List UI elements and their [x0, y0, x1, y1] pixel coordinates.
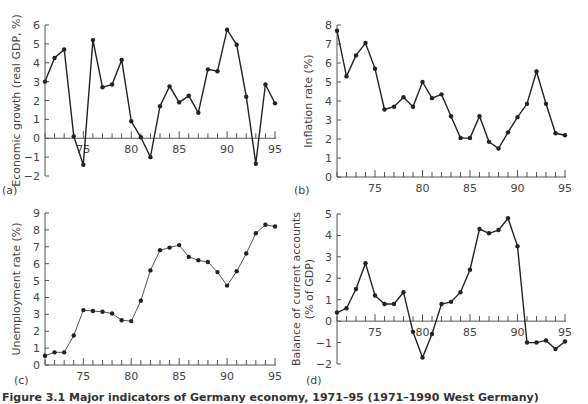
y-tick-label: −1: [24, 151, 40, 164]
data-point: [43, 354, 47, 358]
y-tick-label: 1: [325, 152, 332, 165]
y-tick-label: 4: [33, 291, 40, 304]
data-point: [468, 268, 472, 272]
data-point: [411, 330, 415, 334]
data-point: [273, 101, 277, 105]
y-axis-label: Inflation rate (%): [302, 54, 315, 147]
data-point: [167, 245, 171, 249]
data-point: [553, 347, 557, 351]
data-point: [477, 114, 481, 118]
data-point: [215, 270, 219, 274]
data-point: [254, 162, 258, 166]
data-point: [354, 53, 358, 57]
data-point: [263, 82, 267, 86]
y-tick-label: 5: [325, 76, 332, 89]
data-point: [110, 82, 114, 86]
panel-label: (d): [306, 374, 322, 387]
x-tick-label: 75: [368, 326, 382, 339]
data-point: [129, 119, 133, 123]
data-point: [449, 114, 453, 118]
series-line: [337, 31, 565, 149]
data-point: [363, 261, 367, 265]
y-tick-label: 3: [33, 308, 40, 321]
data-point: [62, 47, 66, 51]
y-tick-label: 3: [325, 251, 332, 264]
figure-caption: Figure 3.1 Major indicators of Germany e…: [2, 391, 539, 404]
data-point: [148, 268, 152, 272]
data-point: [81, 308, 85, 312]
y-tick-label: 4: [325, 229, 332, 242]
y-tick-label: 2: [325, 133, 332, 146]
data-point: [139, 135, 143, 139]
data-point: [439, 92, 443, 96]
x-tick-label: 90: [511, 326, 525, 339]
panel-label: (a): [2, 184, 17, 197]
x-tick-label: 85: [463, 326, 477, 339]
data-point: [158, 104, 162, 108]
x-tick-label: 90: [511, 182, 525, 195]
data-point: [382, 302, 386, 306]
x-tick-label: 75: [76, 370, 90, 383]
y-tick-label: 1: [325, 294, 332, 307]
x-tick-label: 85: [172, 370, 186, 383]
data-point: [43, 79, 47, 83]
data-point: [187, 94, 191, 98]
y-axis-label: Unemployment rate (%): [10, 223, 23, 356]
data-point: [477, 227, 481, 231]
y-tick-label: 7: [325, 38, 332, 51]
figure-3-1: −2−101234567580859095Economic growth (re…: [0, 0, 588, 404]
data-point: [392, 105, 396, 109]
data-point: [496, 146, 500, 150]
x-tick-label: 80: [124, 370, 138, 383]
y-tick-label: −2: [24, 170, 40, 183]
x-tick-label: 90: [220, 143, 234, 156]
data-point: [139, 299, 143, 303]
data-point: [354, 287, 358, 291]
panel-b-inflation: 0123456787580859095Inflation rate (%)(b): [294, 19, 572, 197]
data-point: [225, 283, 229, 287]
data-point: [100, 85, 104, 89]
data-point: [439, 302, 443, 306]
x-tick-label: 75: [368, 182, 382, 195]
data-point: [234, 43, 238, 47]
data-point: [72, 333, 76, 337]
data-point: [100, 310, 104, 314]
data-point: [420, 80, 424, 84]
y-tick-label: −1: [316, 337, 332, 350]
data-point: [458, 136, 462, 140]
data-point: [553, 131, 557, 135]
data-point: [373, 67, 377, 71]
data-point: [206, 260, 210, 264]
y-tick-label: 7: [33, 241, 40, 254]
data-point: [534, 340, 538, 344]
y-tick-label: 3: [33, 76, 40, 89]
y-tick-label: −2: [316, 358, 332, 371]
y-tick-label: 9: [33, 207, 40, 220]
data-point: [72, 134, 76, 138]
y-tick-label: 5: [325, 208, 332, 221]
x-tick-label: 85: [463, 182, 477, 195]
panel-label: (b): [294, 184, 310, 197]
data-point: [496, 228, 500, 232]
x-tick-label: 95: [558, 182, 572, 195]
data-point: [487, 140, 491, 144]
data-point: [487, 231, 491, 235]
data-point: [534, 69, 538, 73]
data-point: [177, 243, 181, 247]
data-point: [344, 74, 348, 78]
series-line: [45, 225, 275, 356]
data-point: [225, 28, 229, 32]
data-point: [392, 302, 396, 306]
data-point: [335, 310, 339, 314]
panel-d-current-accounts: −2−10123457580859095Balance of current a…: [290, 208, 572, 387]
data-point: [148, 155, 152, 159]
data-point: [430, 96, 434, 100]
data-point: [525, 102, 529, 106]
x-tick-label: 85: [172, 143, 186, 156]
data-point: [544, 102, 548, 106]
data-point: [52, 350, 56, 354]
data-point: [420, 355, 424, 359]
data-point: [468, 136, 472, 140]
data-point: [430, 332, 434, 336]
data-point: [206, 67, 210, 71]
